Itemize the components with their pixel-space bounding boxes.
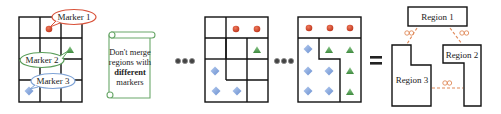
green-marker-icon <box>346 67 354 74</box>
blue-marker-icon <box>212 87 221 96</box>
green-marker-icon <box>253 46 261 53</box>
region-2: Region 2 <box>443 45 481 106</box>
red-marker-icon <box>306 25 313 32</box>
red-marker-icon <box>327 25 334 32</box>
blue-marker-icon <box>211 67 220 76</box>
rule-line-1: Don't merge <box>109 47 151 57</box>
green-marker-icon <box>325 46 333 53</box>
blue-marker-icon <box>304 87 313 96</box>
rule-line-4: markers <box>116 77 143 87</box>
marker1-callout: Marker 1 <box>50 10 96 28</box>
blue-marker-icon <box>233 87 242 96</box>
rule-line-2: regions with <box>109 57 152 67</box>
marker3-label: Marker 3 <box>36 76 70 86</box>
ellipsis-icon <box>274 58 293 63</box>
region-2-label: Region 2 <box>446 50 479 60</box>
red-marker-icon <box>254 26 261 33</box>
red-marker-icon <box>347 25 354 32</box>
region-3: Region 3 <box>392 45 431 106</box>
marker3-callout: Marker 3 <box>30 74 75 90</box>
blue-marker-icon <box>325 87 334 96</box>
green-marker-icon <box>346 88 354 95</box>
region-3-label: Region 3 <box>396 75 429 85</box>
rule-line-3: different <box>114 67 146 77</box>
blue-marker-icon <box>325 67 334 76</box>
link-region1-region2 <box>450 28 462 44</box>
marker1-label: Marker 1 <box>57 12 90 22</box>
green-marker-icon <box>346 46 354 53</box>
red-marker-icon <box>233 26 240 33</box>
blue-marker-icon <box>304 67 313 76</box>
region-1-label: Region 1 <box>421 12 454 22</box>
equals-icon <box>370 56 382 65</box>
region-1: Region 1 <box>408 7 467 26</box>
region-merging-diagram: Marker 1 Marker 2 Marker 3 Don't merge r… <box>0 0 501 114</box>
marker2-label: Marker 2 <box>25 55 58 65</box>
blue-marker-icon <box>304 45 313 54</box>
rule-scroll: Don't merge regions with different marke… <box>107 32 155 98</box>
ellipsis-icon <box>175 58 194 63</box>
